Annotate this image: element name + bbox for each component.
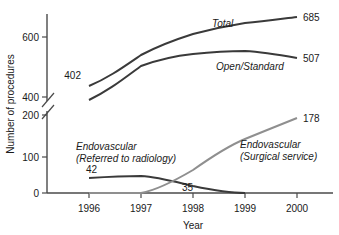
x-tick-label-1999: 1999 bbox=[234, 203, 257, 214]
series-annotations: Total 685 402 Open/Standard 507 Endovasc… bbox=[64, 12, 320, 193]
x-tick-label-1997: 1997 bbox=[130, 203, 153, 214]
axis-break-slash-upper bbox=[42, 93, 54, 107]
x-tick-labels: 1996 1997 1998 1999 2000 bbox=[78, 203, 309, 214]
label-endovascular-surgical-line2: (Surgical service) bbox=[240, 151, 317, 162]
y-tick-label-200: 200 bbox=[22, 110, 39, 121]
x-tick-label-2000: 2000 bbox=[286, 203, 309, 214]
label-open-standard: Open/Standard bbox=[216, 61, 284, 72]
label-endovascular-radiology-line2: (Referred to radiology) bbox=[76, 153, 176, 164]
y-tick-labels: 600 400 200 100 0 bbox=[22, 32, 39, 199]
y-tick-label-0: 0 bbox=[33, 188, 39, 199]
value-radiology-mid: 35 bbox=[182, 182, 194, 193]
chart-container: 600 400 200 100 0 1996 1997 1998 1999 20… bbox=[0, 0, 339, 235]
label-endovascular-radiology-line1: Endovascular bbox=[76, 141, 137, 152]
y-tick-label-600: 600 bbox=[22, 32, 39, 43]
x-tick-label-1998: 1998 bbox=[182, 203, 205, 214]
value-surgical-end: 178 bbox=[303, 113, 320, 124]
axis-break-slash-lower bbox=[42, 105, 54, 119]
y-tick-label-400: 400 bbox=[22, 92, 39, 103]
y-axis-title: Number of procedures bbox=[5, 54, 16, 154]
value-total-start: 402 bbox=[64, 70, 81, 81]
x-axis-title: Year bbox=[183, 220, 204, 231]
series-line-open-standard bbox=[89, 51, 297, 100]
series-lines bbox=[89, 17, 297, 193]
value-total-end: 685 bbox=[303, 12, 320, 23]
line-chart: 600 400 200 100 0 1996 1997 1998 1999 20… bbox=[0, 0, 339, 235]
series-line-total bbox=[89, 17, 297, 86]
value-open-end: 507 bbox=[303, 53, 320, 64]
label-endovascular-surgical-line1: Endovascular bbox=[240, 139, 301, 150]
value-radiology-start: 42 bbox=[86, 164, 98, 175]
label-total: Total bbox=[212, 18, 234, 29]
y-tick-label-100: 100 bbox=[22, 152, 39, 163]
x-tick-label-1996: 1996 bbox=[78, 203, 101, 214]
